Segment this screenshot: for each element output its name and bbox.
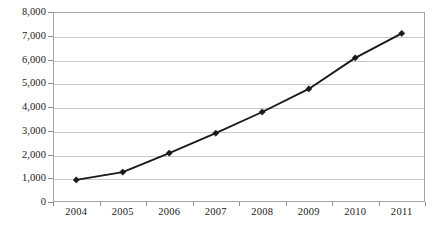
x-tick-label: 2009	[285, 206, 333, 218]
series-data-point	[73, 177, 79, 183]
y-tick-label: 8,000	[0, 6, 46, 17]
y-axis: 01,0002,0003,0004,0005,0006,0007,0008,00…	[0, 0, 46, 239]
line-chart: 01,0002,0003,0004,0005,0006,0007,0008,00…	[0, 0, 447, 239]
x-tick-mark	[193, 202, 194, 206]
y-tick-label: 1,000	[0, 172, 46, 183]
x-tick-mark	[100, 202, 101, 206]
x-tick-mark	[379, 202, 380, 206]
x-tick-label: 2010	[331, 206, 379, 218]
series-data-point	[120, 169, 126, 175]
y-tick-label: 4,000	[0, 101, 46, 112]
series-line-path	[76, 33, 402, 180]
series-data-point	[166, 150, 172, 156]
y-tick-mark	[48, 131, 53, 132]
x-tick-label: 2008	[238, 206, 286, 218]
y-tick-mark	[48, 155, 53, 156]
x-tick-mark	[239, 202, 240, 206]
y-tick-mark	[48, 60, 53, 61]
y-tick-label: 6,000	[0, 54, 46, 65]
y-tick-mark	[48, 36, 53, 37]
x-tick-mark	[425, 202, 426, 206]
series-group	[53, 12, 425, 202]
x-tick-label: 2011	[378, 206, 426, 218]
x-tick-label: 2007	[192, 206, 240, 218]
x-tick-label: 2004	[52, 206, 100, 218]
x-axis: 20042005200620072008200920102011	[0, 206, 447, 226]
x-tick-mark	[286, 202, 287, 206]
x-tick-mark	[332, 202, 333, 206]
series-markers	[73, 30, 405, 183]
x-tick-label: 2006	[145, 206, 193, 218]
x-tick-mark	[53, 202, 54, 206]
y-tick-label: 5,000	[0, 77, 46, 88]
series-data-point	[213, 130, 219, 136]
series-data-point	[259, 109, 265, 115]
y-tick-label: 7,000	[0, 30, 46, 41]
x-tick-label: 2005	[99, 206, 147, 218]
y-tick-mark	[48, 83, 53, 84]
y-tick-mark	[48, 12, 53, 13]
y-tick-label: 3,000	[0, 125, 46, 136]
x-tick-mark	[146, 202, 147, 206]
y-tick-mark	[48, 107, 53, 108]
y-tick-label: 2,000	[0, 149, 46, 160]
y-tick-mark	[48, 178, 53, 179]
